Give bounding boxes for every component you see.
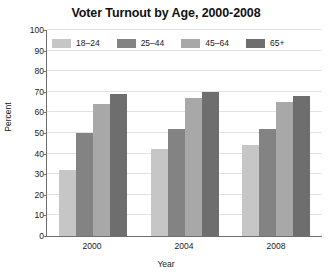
x-tick-label: 2008	[230, 241, 322, 251]
legend-label: 65+	[270, 38, 284, 48]
y-tick-mark	[43, 30, 46, 31]
y-tick-mark	[43, 112, 46, 113]
y-tick-label: 30	[4, 169, 44, 179]
bar	[259, 129, 276, 236]
legend-swatch-icon	[52, 39, 71, 48]
bar-group	[230, 30, 322, 236]
legend: 18–2425–4445–6465+	[52, 38, 284, 48]
y-tick-mark	[43, 174, 46, 175]
x-tick-label: 2004	[138, 241, 230, 251]
bar	[168, 129, 185, 236]
bar	[110, 94, 127, 236]
legend-swatch-icon	[181, 39, 200, 48]
y-tick-label: 20	[4, 190, 44, 200]
bar-group	[139, 30, 231, 236]
y-tick-mark	[43, 236, 46, 237]
y-tick-label: 80	[4, 66, 44, 76]
y-tick-mark	[43, 92, 46, 93]
y-tick-mark	[43, 71, 46, 72]
y-tick-mark	[43, 154, 46, 155]
y-tick-label: 100	[4, 25, 44, 35]
legend-label: 25–44	[141, 38, 165, 48]
y-tick-label: 90	[4, 46, 44, 56]
bar	[185, 98, 202, 236]
y-tick-mark	[43, 215, 46, 216]
bar	[59, 170, 76, 236]
y-tick-label: 60	[4, 107, 44, 117]
x-tick-label: 2000	[46, 241, 138, 251]
legend-item: 65+	[246, 38, 284, 48]
legend-label: 18–24	[76, 38, 100, 48]
y-tick-label: 10	[4, 210, 44, 220]
y-tick-mark	[43, 195, 46, 196]
y-tick-mark	[43, 133, 46, 134]
x-axis-label: Year	[0, 259, 332, 269]
bar-group	[47, 30, 139, 236]
y-tick-mark	[43, 51, 46, 52]
bar	[151, 149, 168, 236]
bar	[76, 133, 93, 236]
legend-swatch-icon	[246, 39, 265, 48]
bar-chart: Voter Turnout by Age, 2000-2008 Percent …	[0, 0, 332, 277]
y-tick-label: 50	[4, 128, 44, 138]
bar	[93, 104, 110, 236]
bar	[242, 145, 259, 236]
bar	[276, 102, 293, 236]
y-tick-label: 70	[4, 87, 44, 97]
legend-item: 18–24	[52, 38, 100, 48]
bar	[293, 96, 310, 236]
legend-label: 45–64	[205, 38, 229, 48]
chart-title: Voter Turnout by Age, 2000-2008	[0, 6, 332, 20]
y-tick-label: 40	[4, 149, 44, 159]
legend-item: 45–64	[181, 38, 229, 48]
legend-swatch-icon	[117, 39, 136, 48]
x-axis-ticks: 200020042008	[46, 241, 322, 251]
plot-area	[46, 30, 322, 237]
bar-groups	[47, 30, 322, 236]
legend-item: 25–44	[117, 38, 165, 48]
y-tick-label: 0	[4, 231, 44, 241]
bar	[202, 92, 219, 236]
